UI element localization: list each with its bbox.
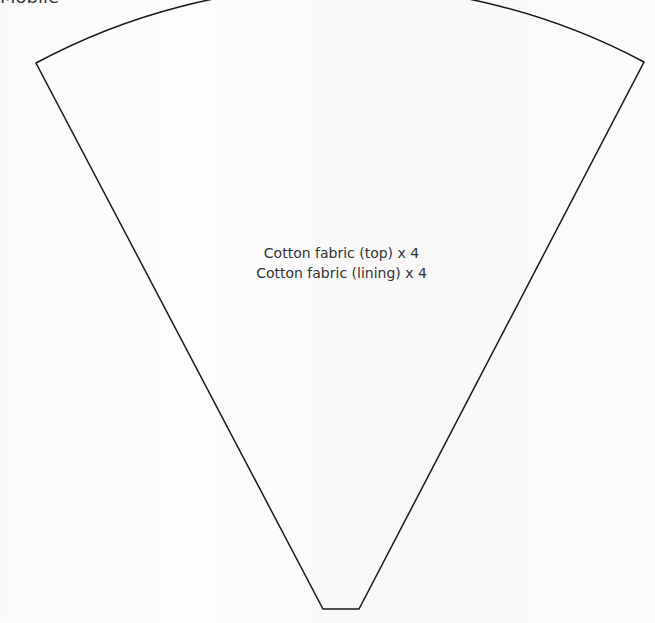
piece-instructions: Cotton fabric (top) x 4 Cotton fabric (l… [0,243,655,283]
pattern-sheet: Mobile Cotton fabric (top) x 4 Cotton fa… [0,0,655,623]
wedge-outline [36,0,644,609]
label-top-fabric: Cotton fabric (top) x 4 [0,243,655,263]
label-lining-fabric: Cotton fabric (lining) x 4 [0,263,655,283]
wedge-pattern-piece [0,0,655,623]
